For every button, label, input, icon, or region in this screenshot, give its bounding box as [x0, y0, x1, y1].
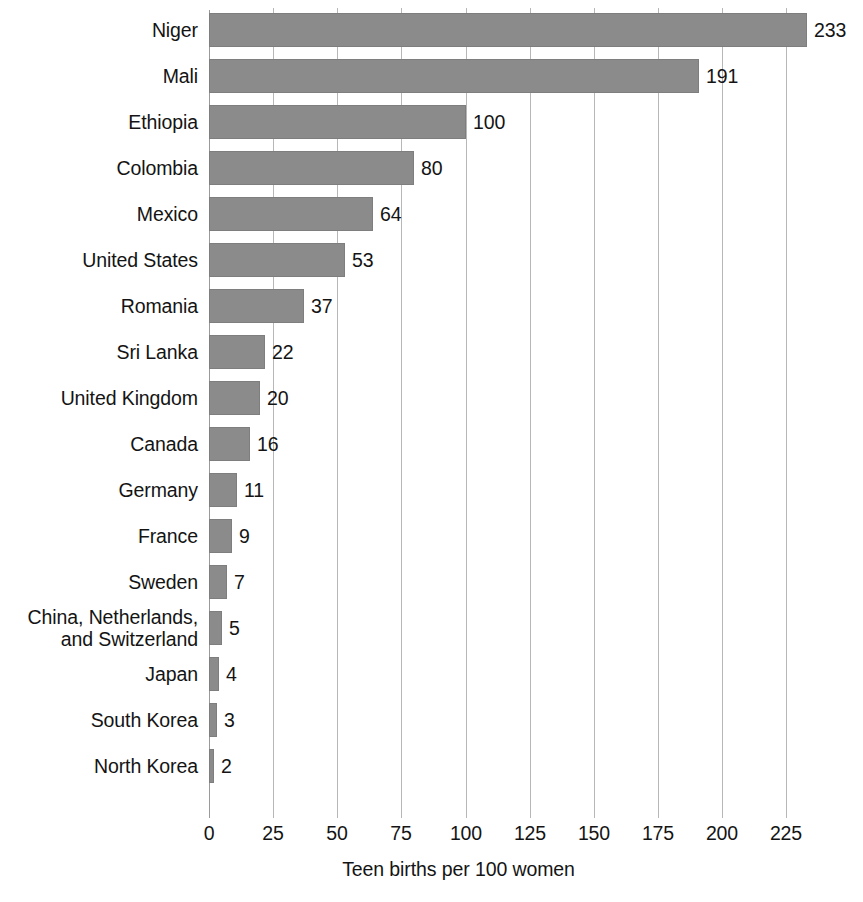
bar	[209, 13, 807, 47]
category-label: Japan	[0, 651, 198, 697]
bar-value-label: 80	[414, 145, 443, 191]
x-tick-label: 25	[262, 822, 284, 845]
x-tick-label: 200	[706, 822, 738, 845]
bar	[209, 519, 232, 553]
bar-row: Japan4	[0, 651, 863, 697]
category-label: South Korea	[0, 697, 198, 743]
bar-row: France9	[0, 513, 863, 559]
category-label: Mexico	[0, 191, 198, 237]
bar	[209, 565, 227, 599]
category-label: Niger	[0, 7, 198, 53]
bar	[209, 151, 414, 185]
bar-row: Ethiopia100	[0, 99, 863, 145]
x-tick-label: 225	[770, 822, 802, 845]
bar	[209, 243, 345, 277]
bar-rows: Niger233Mali191Ethiopia100Colombia80Mexi…	[0, 0, 863, 818]
bar	[209, 105, 466, 139]
bar-row: United Kingdom20	[0, 375, 863, 421]
category-label: Colombia	[0, 145, 198, 191]
category-label: China, Netherlands, and Switzerland	[0, 605, 198, 651]
x-tick-label: 125	[514, 822, 546, 845]
bar-row: South Korea3	[0, 697, 863, 743]
bar	[209, 197, 373, 231]
category-label: Germany	[0, 467, 198, 513]
bar-row: Mexico64	[0, 191, 863, 237]
x-axis-title: Teen births per 100 women	[0, 858, 863, 881]
bar-row: North Korea2	[0, 743, 863, 789]
bar	[209, 59, 699, 93]
bar-value-label: 11	[237, 467, 264, 513]
category-label: Sweden	[0, 559, 198, 605]
bar	[209, 657, 219, 691]
x-axis-title-label: Teen births per 100 women	[342, 858, 575, 880]
bar	[209, 703, 217, 737]
x-tick-label: 75	[390, 822, 412, 845]
bar-value-label: 100	[466, 99, 505, 145]
bar-row: United States53	[0, 237, 863, 283]
category-label: United Kingdom	[0, 375, 198, 421]
x-tick-label: 100	[450, 822, 482, 845]
bar-row: Sri Lanka22	[0, 329, 863, 375]
bar-value-label: 37	[304, 283, 333, 329]
x-axis: 0255075100125150175200225	[0, 818, 863, 858]
category-label: Mali	[0, 53, 198, 99]
bar-row: Germany11	[0, 467, 863, 513]
bar	[209, 473, 237, 507]
bar-row: Sweden7	[0, 559, 863, 605]
category-label: France	[0, 513, 198, 559]
bar-value-label: 233	[807, 7, 846, 53]
bar-row: Colombia80	[0, 145, 863, 191]
bar-row: Mali191	[0, 53, 863, 99]
bar-value-label: 53	[345, 237, 374, 283]
bar-row: Niger233	[0, 7, 863, 53]
x-tick-label: 50	[326, 822, 348, 845]
bar-value-label: 22	[265, 329, 294, 375]
bar-value-label: 4	[219, 651, 237, 697]
category-label: Ethiopia	[0, 99, 198, 145]
bar-value-label: 64	[373, 191, 402, 237]
bar-value-label: 9	[232, 513, 250, 559]
bar-row: Canada16	[0, 421, 863, 467]
x-tick-label: 0	[204, 822, 215, 845]
category-label: Romania	[0, 283, 198, 329]
bar-row: Romania37	[0, 283, 863, 329]
bar-value-label: 16	[250, 421, 279, 467]
plot-area: Niger233Mali191Ethiopia100Colombia80Mexi…	[0, 0, 863, 818]
bar	[209, 381, 260, 415]
category-label: Canada	[0, 421, 198, 467]
bar-value-label: 5	[222, 605, 240, 651]
x-tick-label: 175	[642, 822, 674, 845]
bar	[209, 335, 265, 369]
category-label: Sri Lanka	[0, 329, 198, 375]
bar-row: China, Netherlands, and Switzerland5	[0, 605, 863, 651]
teen-births-bar-chart: Niger233Mali191Ethiopia100Colombia80Mexi…	[0, 0, 863, 902]
bar	[209, 427, 250, 461]
bar	[209, 611, 222, 645]
category-label: United States	[0, 237, 198, 283]
bar-value-label: 20	[260, 375, 289, 421]
bar	[209, 289, 304, 323]
category-label: North Korea	[0, 743, 198, 789]
bar-value-label: 191	[699, 53, 738, 99]
bar-value-label: 7	[227, 559, 245, 605]
bar-value-label: 3	[217, 697, 235, 743]
x-tick-label: 150	[578, 822, 610, 845]
bar-value-label: 2	[214, 743, 232, 789]
